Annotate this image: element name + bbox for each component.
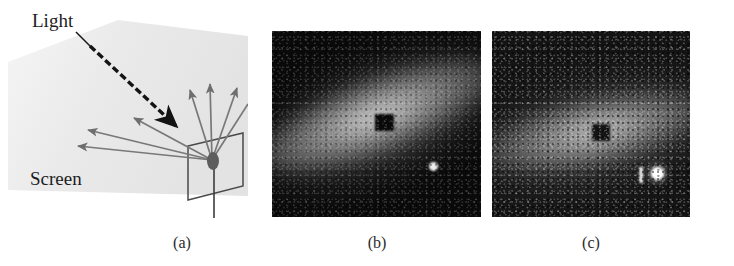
caption-panel-a: (a) bbox=[142, 234, 222, 252]
panel-c-photograph bbox=[492, 31, 690, 217]
light-label: Light bbox=[32, 10, 74, 31]
caption-panel-b: (b) bbox=[337, 234, 417, 252]
screen-label: Screen bbox=[30, 168, 82, 189]
scatter-point-marker bbox=[207, 152, 219, 170]
caption-panel-c: (c) bbox=[551, 234, 631, 252]
panel-a-diagram: Light Screen bbox=[0, 0, 248, 222]
panel-b-photograph bbox=[272, 31, 481, 217]
scattering-schematic-svg: Light Screen bbox=[0, 0, 248, 222]
figure-container: Light Screen bbox=[0, 0, 734, 266]
sensor-noise-c bbox=[492, 31, 690, 217]
sensor-noise-b bbox=[272, 31, 481, 217]
